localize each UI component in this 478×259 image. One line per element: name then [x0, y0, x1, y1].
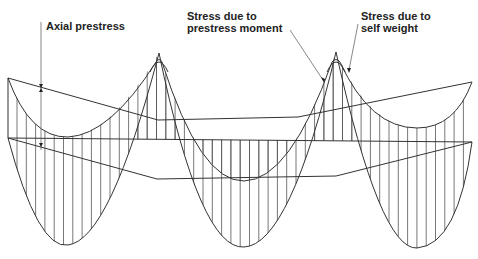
label-text: Axial prestress [46, 20, 125, 32]
moment-leader-line [290, 30, 323, 80]
axial-prestress-label: Axial prestress [46, 20, 125, 32]
hatching [17, 40, 463, 255]
upper-moment-line [8, 78, 472, 120]
self-weight-leader-line [349, 24, 358, 70]
label-line-1: Stress due to [187, 10, 282, 22]
self-weight-label: Stress due to self weight [361, 10, 431, 34]
label-line-2: prestress moment [187, 22, 282, 34]
label-line-2: self weight [361, 22, 431, 34]
prestress-moment-label: Stress due to prestress moment [187, 10, 282, 34]
stress-diagram [0, 0, 478, 259]
arrow-up-icon [39, 88, 43, 92]
arrow-head-icon [347, 68, 351, 73]
label-line-1: Stress due to [361, 10, 431, 22]
peak-cap-1 [150, 62, 168, 72]
